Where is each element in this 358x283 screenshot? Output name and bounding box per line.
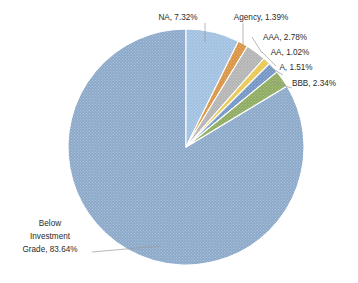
pie-label-big-line3: Grade, 83.64% xyxy=(22,245,77,254)
pie-chart-figure: NA, 7.32% Agency, 1.39% AAA, 2.78% AA, 1… xyxy=(0,0,358,283)
pie-chart-svg: NA, 7.32% Agency, 1.39% AAA, 2.78% AA, 1… xyxy=(0,0,358,283)
pie-label-a: A, 1.51% xyxy=(279,63,312,72)
pie-label-big-line2: Investment xyxy=(30,232,71,241)
pie-label-aaa: AAA, 2.78% xyxy=(263,33,307,42)
pie-label-na: NA, 7.32% xyxy=(158,13,197,22)
pie-label-agency: Agency, 1.39% xyxy=(234,13,288,22)
pie-label-bbb: BBB, 2.34% xyxy=(292,79,336,88)
pie-label-aa: AA, 1.02% xyxy=(271,48,310,57)
pie-label-big-line1: Below xyxy=(39,219,61,228)
